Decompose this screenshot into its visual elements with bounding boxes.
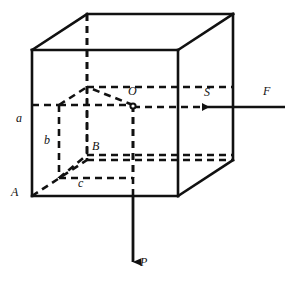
label-F: F — [263, 85, 270, 97]
point-O-marker — [130, 103, 135, 108]
label-b: b — [44, 134, 50, 146]
cube-edge-bottom-right-diag — [178, 160, 233, 196]
inner-edge-top-left-diag — [59, 87, 87, 105]
label-B: B — [92, 140, 99, 152]
label-P: P — [140, 256, 147, 268]
inner-edge-top-right — [87, 87, 133, 105]
label-S: S — [204, 86, 210, 98]
label-c: c — [78, 177, 83, 189]
label-A: A — [11, 186, 18, 198]
label-O: O — [128, 85, 137, 97]
cube-edge-top-left-diag — [32, 14, 87, 50]
label-a: a — [16, 112, 22, 124]
inner-edge-bottom-left-diag — [59, 155, 87, 178]
cube-edge-top-right-diag — [178, 14, 233, 50]
geometry-figure: a b c A B O S F P — [0, 0, 287, 288]
